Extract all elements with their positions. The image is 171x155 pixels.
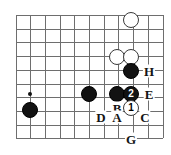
grid-line-horizontal: [16, 42, 163, 43]
grid-line-horizontal: [16, 138, 163, 139]
stone-move-number: 1: [128, 103, 134, 113]
grid-line-horizontal: [16, 15, 163, 16]
point-label-h: H: [143, 65, 155, 78]
stone-move-number: 2: [128, 89, 134, 99]
grid-line-vertical: [45, 15, 46, 138]
black-stone-middle[interactable]: [81, 86, 97, 102]
grid-line-vertical: [89, 15, 90, 138]
grid-line-horizontal: [16, 125, 163, 126]
point-label-e: E: [144, 88, 155, 101]
grid-line-horizontal: [16, 29, 163, 30]
grid-line-vertical: [60, 15, 61, 138]
point-label-g: G: [125, 133, 137, 146]
star-point-left: [28, 92, 32, 96]
point-label-a: A: [111, 111, 122, 124]
point-label-c: C: [139, 111, 150, 124]
grid-line-vertical: [16, 15, 17, 138]
grid-line-vertical: [163, 15, 164, 138]
black-stone-h[interactable]: [123, 63, 139, 79]
white-stone-move-1[interactable]: 1: [123, 100, 139, 116]
grid-line-vertical: [74, 15, 75, 138]
grid-line-horizontal: [16, 84, 163, 85]
grid-line-horizontal: [16, 70, 163, 71]
black-stone-far-left[interactable]: [22, 102, 38, 118]
grid-line-horizontal: [16, 56, 163, 57]
grid-line-vertical: [30, 15, 31, 138]
white-stone-top[interactable]: [123, 12, 139, 28]
go-board-diagram: 21 HEBDACG: [0, 0, 171, 155]
point-label-d: D: [95, 111, 106, 124]
